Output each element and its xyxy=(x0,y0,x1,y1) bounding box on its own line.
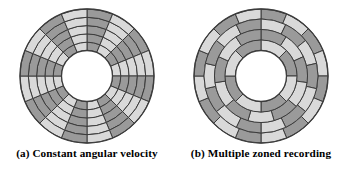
sector-group-a xyxy=(20,9,154,143)
panel-constant-angular-velocity: (a) Constant angular velocity xyxy=(0,0,174,177)
disk-sector xyxy=(306,63,318,88)
disk-hub-hole xyxy=(62,51,113,102)
disk-diagram-a xyxy=(17,6,157,146)
disk-constant-angular-velocity xyxy=(17,6,157,146)
disk-hub-hole xyxy=(236,51,287,102)
caption-b: (b) Multiple zoned recording xyxy=(174,147,348,159)
disk-diagram-b xyxy=(191,6,331,146)
panel-multiple-zoned-recording: (b) Multiple zoned recording xyxy=(174,0,348,177)
disk-sector xyxy=(204,63,216,88)
sector-group-b xyxy=(194,9,328,143)
disk-layout-figure: (a) Constant angular velocity (b) Multip… xyxy=(0,0,348,177)
disk-multiple-zoned-recording xyxy=(191,6,331,146)
caption-a: (a) Constant angular velocity xyxy=(0,147,174,159)
